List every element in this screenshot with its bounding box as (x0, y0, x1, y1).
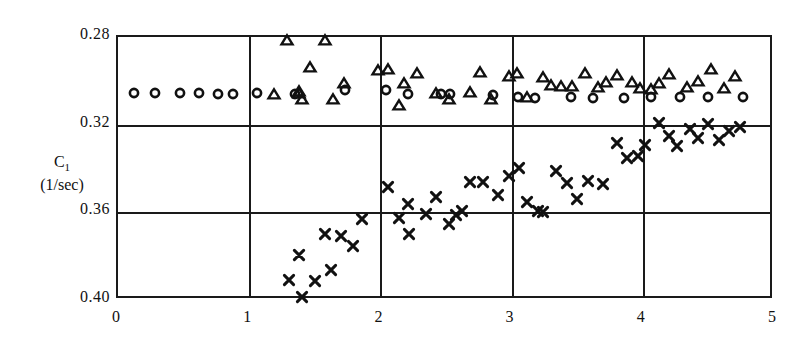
x-axis-tick-label: 2 (358, 308, 398, 326)
data-point-triangle (626, 76, 639, 88)
data-point-circle (434, 88, 447, 101)
y-axis-tick-label: 0.32 (30, 113, 110, 131)
data-point-cross (476, 175, 490, 189)
data-point-cross (549, 164, 563, 178)
data-point-triangle (718, 82, 731, 94)
data-point-triangle (544, 79, 557, 91)
data-point-circle (586, 91, 599, 104)
gridline-horizontal (118, 125, 770, 127)
data-point-triangle (705, 63, 718, 75)
data-point-circle (529, 91, 542, 104)
plot-area (116, 35, 772, 298)
y-axis-tick-label: 0.28 (30, 25, 110, 43)
data-point-circle (251, 86, 264, 99)
data-point-cross (596, 177, 610, 191)
y-axis-title-symbol: C1 (14, 152, 110, 175)
data-point-cross (570, 192, 584, 206)
data-point-cross (442, 217, 456, 231)
data-point-circle (673, 90, 686, 103)
data-point-cross (429, 190, 443, 204)
gridline-vertical (643, 37, 645, 296)
y-axis-title-subscript: 1 (65, 161, 71, 173)
data-point-triangle (579, 67, 592, 79)
data-point-cross (381, 180, 395, 194)
data-point-triangle (521, 91, 534, 103)
data-point-triangle (652, 77, 665, 89)
data-point-cross (560, 176, 574, 190)
chart-figure: C1 (1/sec) 0.280.320.360.40 012345 (0, 0, 796, 344)
x-axis-tick-label: 1 (227, 308, 267, 326)
data-point-triangle (592, 81, 605, 93)
data-point-cross (733, 120, 747, 134)
data-point-triangle (681, 81, 694, 93)
data-point-triangle (663, 68, 676, 80)
gridline-horizontal (118, 212, 770, 214)
data-point-triangle (293, 87, 306, 99)
data-point-cross (491, 188, 505, 202)
data-point-triangle (474, 66, 487, 78)
y-axis-tick-label: 0.36 (30, 200, 110, 218)
data-point-circle (401, 87, 414, 100)
data-point-circle (443, 88, 456, 101)
y-axis-title-units: (1/sec) (14, 175, 110, 195)
data-point-cross (295, 290, 309, 304)
data-point-triangle (281, 34, 294, 46)
y-axis-title-variable: C (54, 153, 65, 170)
data-point-triangle (691, 75, 704, 87)
data-point-triangle (600, 76, 613, 88)
data-point-triangle (555, 80, 568, 92)
data-point-triangle (337, 77, 350, 89)
data-point-cross (502, 169, 516, 183)
y-axis-tick-label: 0.40 (30, 288, 110, 306)
data-point-cross (670, 139, 684, 153)
data-point-circle (512, 90, 525, 103)
data-point-triangle (463, 86, 476, 98)
data-point-cross (712, 133, 726, 147)
data-point-triangle (610, 69, 623, 81)
data-point-cross (282, 273, 296, 287)
data-point-triangle (429, 87, 442, 99)
data-point-triangle (392, 99, 405, 111)
gridline-vertical (380, 37, 382, 296)
data-point-triangle (442, 93, 455, 105)
data-point-cross (402, 227, 416, 241)
data-point-circle (618, 91, 631, 104)
data-point-triangle (293, 85, 306, 97)
data-point-cross (512, 161, 526, 175)
data-point-cross (520, 195, 534, 209)
data-point-circle (702, 90, 715, 103)
data-point-circle (564, 90, 577, 103)
data-point-triangle (411, 67, 424, 79)
gridline-vertical (249, 37, 251, 296)
data-point-cross (662, 129, 676, 143)
data-point-triangle (484, 93, 497, 105)
data-point-circle (127, 86, 140, 99)
data-point-cross (308, 274, 322, 288)
data-point-circle (644, 91, 657, 104)
data-point-triangle (728, 70, 741, 82)
data-point-cross (531, 204, 545, 218)
data-point-triangle (303, 61, 316, 73)
x-axis-tick-label: 3 (490, 308, 530, 326)
data-point-triangle (565, 80, 578, 92)
data-point-circle (487, 89, 500, 102)
data-point-triangle (319, 34, 332, 46)
data-point-cross (324, 263, 338, 277)
data-point-triangle (398, 77, 411, 89)
data-point-cross (581, 174, 595, 188)
data-point-cross (620, 151, 634, 165)
data-point-cross (463, 175, 477, 189)
data-point-cross (691, 131, 705, 145)
data-point-circle (289, 87, 302, 100)
data-point-triangle (268, 88, 281, 100)
data-point-circle (173, 86, 186, 99)
data-point-circle (736, 90, 749, 103)
data-point-cross (346, 239, 360, 253)
data-point-triangle (382, 63, 395, 75)
data-point-cross (318, 227, 332, 241)
data-point-triangle (295, 93, 308, 105)
data-point-circle (193, 86, 206, 99)
data-point-cross (334, 229, 348, 243)
data-point-cross (652, 116, 666, 130)
data-point-cross (449, 208, 463, 222)
